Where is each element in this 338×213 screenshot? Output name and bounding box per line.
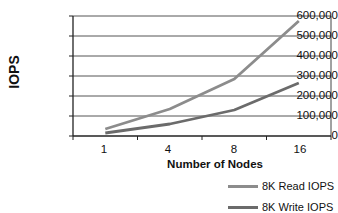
y-tick-label: 600,000 bbox=[274, 9, 338, 21]
legend-label-write: 8K Write IOPS bbox=[262, 201, 333, 213]
legend-swatch-read bbox=[228, 185, 258, 188]
x-tick-label: 8 bbox=[219, 143, 249, 155]
y-tick-label: 200,000 bbox=[274, 89, 338, 101]
y-tick-label: 400,000 bbox=[274, 49, 338, 61]
y-tick-label: 300,000 bbox=[274, 69, 338, 81]
read-iops-line bbox=[105, 21, 298, 129]
x-tick-label: 1 bbox=[89, 143, 119, 155]
legend-item-read: 8K Read IOPS bbox=[228, 179, 334, 193]
legend-item-write: 8K Write IOPS bbox=[228, 200, 333, 213]
legend-swatch-write bbox=[228, 206, 258, 209]
x-tick-label: 4 bbox=[153, 143, 183, 155]
iops-line-chart: 600,000 500,000 400,000 300,000 200,000 … bbox=[0, 0, 338, 213]
y-tick-label: 0 bbox=[274, 129, 338, 141]
x-tick-label: 16 bbox=[285, 143, 315, 155]
y-tick-label: 100,000 bbox=[274, 109, 338, 121]
y-axis-title: IOPS bbox=[6, 50, 22, 94]
write-iops-line bbox=[105, 83, 298, 133]
x-axis-title: Number of Nodes bbox=[150, 158, 280, 170]
legend-label-read: 8K Read IOPS bbox=[262, 180, 334, 192]
y-tick-label: 500,000 bbox=[274, 29, 338, 41]
